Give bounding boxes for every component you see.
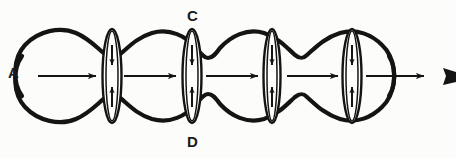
constriction-4 [343,29,362,123]
constriction-2 [183,29,202,123]
tube-top-wall [15,30,394,96]
figure-canvas: A C D [0,0,456,158]
constriction-3 [264,29,281,123]
exit-flow-marker-icon [443,68,456,85]
diagram-label-a: A [8,65,19,80]
constriction-1 [103,29,122,123]
tube-bottom-wall [15,56,394,122]
beaded-tube-diagram [0,0,456,158]
constriction-lens-outer [264,29,281,123]
diagram-label-d: D [187,134,198,149]
diagram-label-c: C [187,8,198,23]
